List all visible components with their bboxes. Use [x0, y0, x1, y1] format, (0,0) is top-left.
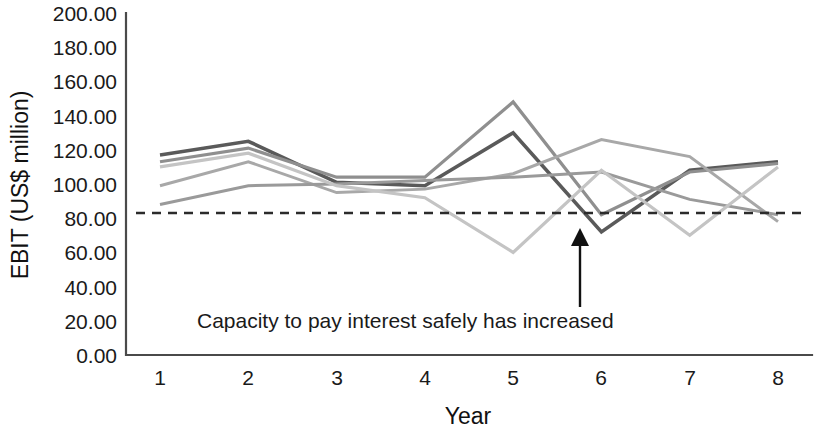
x-tick-label: 2 [242, 366, 254, 389]
series-line-3 [160, 140, 778, 222]
x-tick-label: 3 [331, 366, 343, 389]
y-axis-tick-labels: 200.00 180.00 160.00 140.00 120.00 100.0… [53, 2, 117, 367]
x-tick-label: 6 [595, 366, 607, 389]
y-tick-label: 40.00 [64, 276, 117, 299]
y-axis-title: EBIT (US$ million) [7, 91, 33, 280]
x-tick-label: 7 [684, 366, 696, 389]
annotation-arrow [571, 228, 589, 307]
ebit-line-chart: EBIT (US$ million) 200.00 180.00 160.00 … [0, 0, 825, 432]
x-axis-title: Year [445, 403, 492, 429]
axis-lines [126, 13, 812, 355]
y-tick-label: 60.00 [64, 241, 117, 264]
y-tick-label: 160.00 [53, 70, 117, 93]
y-tick-label: 120.00 [53, 139, 117, 162]
y-tick-label: 100.00 [53, 173, 117, 196]
x-tick-label: 1 [154, 366, 166, 389]
y-tick-label: 200.00 [53, 2, 117, 25]
x-tick-label: 5 [507, 366, 519, 389]
series-layer [160, 102, 778, 252]
y-tick-label: 140.00 [53, 105, 117, 128]
y-tick-label: 180.00 [53, 36, 117, 59]
x-tick-label: 4 [419, 366, 431, 389]
y-tick-label: 80.00 [64, 207, 117, 230]
series-line-5 [160, 153, 778, 252]
series-line-4 [160, 172, 778, 215]
annotation-capacity-note: Capacity to pay interest safely has incr… [197, 309, 614, 332]
y-tick-label: 20.00 [64, 310, 117, 333]
y-tick-label: 0.00 [76, 344, 117, 367]
x-axis-tick-labels: 1 2 3 4 5 6 7 8 [154, 366, 784, 389]
x-tick-label: 8 [772, 366, 784, 389]
chart-container: EBIT (US$ million) 200.00 180.00 160.00 … [0, 0, 825, 432]
